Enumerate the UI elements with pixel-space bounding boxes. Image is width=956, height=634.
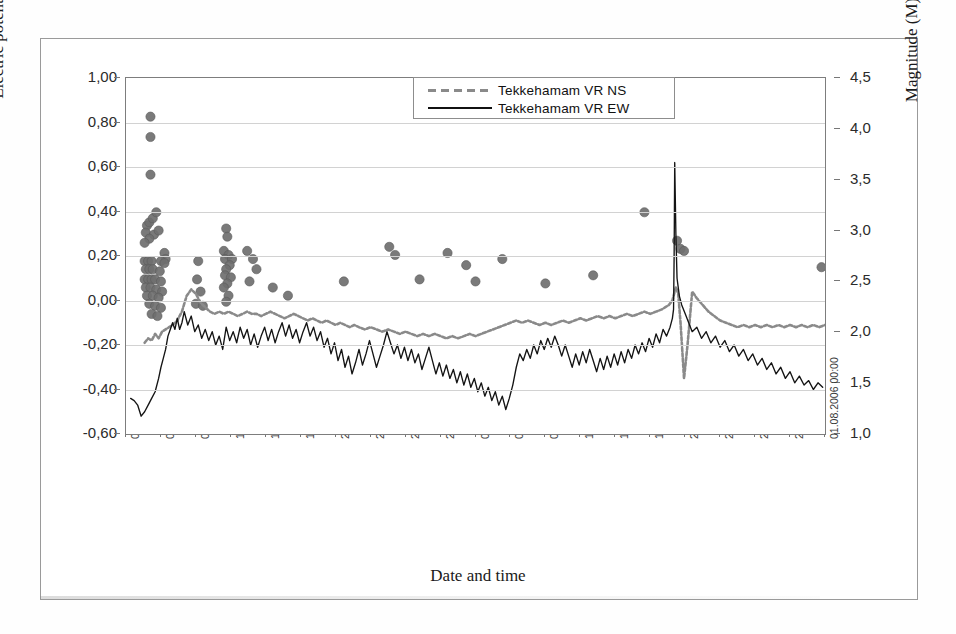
y-axis-tick-label: 0,40: [55, 202, 117, 219]
gridline: [126, 123, 825, 124]
y-axis-tick-labels: 1,000,800,600,400,200,00-0,20-0,40-0,60: [51, 77, 117, 435]
y-axis-tick-mark: [114, 122, 120, 123]
scatter-point: [192, 275, 201, 284]
secondary-y-axis-tick-label: 2,5: [850, 271, 912, 288]
scatter-point: [385, 242, 394, 251]
y-axis-tick-label: 0,00: [55, 291, 117, 308]
y-axis-tick-mark: [114, 211, 120, 212]
scatter-series-magnitude: [140, 112, 825, 321]
gridline: [126, 345, 825, 346]
scatter-point: [146, 112, 155, 121]
secondary-y-axis-tick-label: 4,5: [850, 68, 912, 85]
x-axis-tick-label: 01.08.2006 00:00: [828, 357, 840, 439]
legend-swatch-solid-icon: [428, 103, 492, 113]
scatter-point: [146, 132, 155, 141]
gridline: [126, 167, 825, 168]
secondary-y-axis-tick-label: 4,0: [850, 119, 912, 136]
y-axis-tick-label: 0,20: [55, 246, 117, 263]
scatter-point: [679, 246, 688, 255]
y-axis-tick-mark: [114, 77, 120, 78]
scatter-point: [223, 232, 232, 241]
scatter-point: [155, 267, 164, 276]
secondary-y-axis-tick-mark: [834, 331, 840, 332]
scatter-point: [339, 277, 348, 286]
scatter-point: [153, 311, 162, 320]
scatter-point: [160, 259, 169, 268]
legend-label-ns: Tekkehamam VR NS: [498, 83, 627, 98]
scatter-point: [156, 303, 165, 312]
scatter-point: [147, 256, 156, 265]
secondary-y-axis-tick-label: 2,0: [850, 322, 912, 339]
scatter-point: [471, 277, 480, 286]
scatter-point: [146, 170, 155, 179]
secondary-y-axis-tick-label: 1,5: [850, 373, 912, 390]
scatter-point: [462, 261, 471, 270]
scatter-point: [252, 265, 261, 274]
scatter-point: [222, 224, 231, 233]
scatter-point: [222, 297, 231, 306]
scatter-point: [283, 291, 292, 300]
y-axis-title: Electric potential (mV): [0, 0, 8, 150]
scatter-point: [817, 263, 825, 272]
y-axis-tick-label: 0,80: [55, 113, 117, 130]
y-axis-tick-mark: [114, 255, 120, 256]
scatter-point: [415, 275, 424, 284]
y-axis-tick-label: -0,20: [55, 335, 117, 352]
y-axis-tick-label: 1,00: [55, 68, 117, 85]
y-axis-tick-mark: [114, 166, 120, 167]
y-axis-tick-label: -0,40: [55, 380, 117, 397]
x-axis-tick-labels: 02.06.2006 00:0005.06.2006 00:0008.06.20…: [125, 437, 826, 557]
secondary-y-axis-tick-mark: [834, 230, 840, 231]
figure-root: Electric potential (mV) Magnitude (M) Da…: [0, 0, 956, 634]
legend-item-ns: Tekkehamam VR NS: [414, 81, 674, 99]
series-line-ew: [131, 163, 823, 417]
secondary-y-axis-tick-labels: 4,54,03,53,02,52,01,51,0: [834, 77, 904, 435]
scatter-point: [589, 271, 598, 280]
scatter-point: [268, 283, 277, 292]
legend-swatch-dashed-icon: [428, 85, 492, 95]
secondary-y-axis-title: Magnitude (M): [902, 0, 922, 170]
caption-smudge: [40, 596, 820, 599]
y-axis-tick-mark: [114, 389, 120, 390]
y-axis-tick-label: 0,60: [55, 157, 117, 174]
scatter-point: [156, 277, 165, 286]
scatter-point: [541, 279, 550, 288]
scatter-point: [219, 283, 228, 292]
plot-area: [125, 77, 826, 435]
scatter-point: [391, 250, 400, 259]
legend-item-ew: Tekkehamam VR EW: [414, 99, 674, 117]
gridline: [126, 212, 825, 213]
legend: Tekkehamam VR NS Tekkehamam VR EW: [413, 77, 675, 119]
scatter-point: [194, 256, 203, 265]
line-series-group: [131, 163, 825, 417]
secondary-y-axis-tick-mark: [834, 77, 840, 78]
scatter-point: [140, 238, 149, 247]
x-axis-title: Date and time: [0, 566, 956, 586]
secondary-y-axis-tick-mark: [834, 280, 840, 281]
secondary-y-axis-tick-label: 3,0: [850, 221, 912, 238]
y-axis-tick-label: -0,60: [55, 424, 117, 441]
secondary-y-axis-tick-label: 1,0: [850, 424, 912, 441]
y-axis-tick-mark: [114, 300, 120, 301]
scatter-point: [154, 226, 163, 235]
gridline: [126, 390, 825, 391]
gridline: [126, 256, 825, 257]
secondary-y-axis-tick-mark: [834, 128, 840, 129]
secondary-y-axis-tick-label: 3,5: [850, 170, 912, 187]
y-axis-tick-mark: [114, 344, 120, 345]
legend-label-ew: Tekkehamam VR EW: [498, 101, 629, 116]
y-axis-tick-mark: [114, 433, 120, 434]
scatter-point: [243, 246, 252, 255]
gridline: [126, 301, 825, 302]
secondary-y-axis-tick-mark: [834, 179, 840, 180]
scatter-point: [245, 277, 254, 286]
